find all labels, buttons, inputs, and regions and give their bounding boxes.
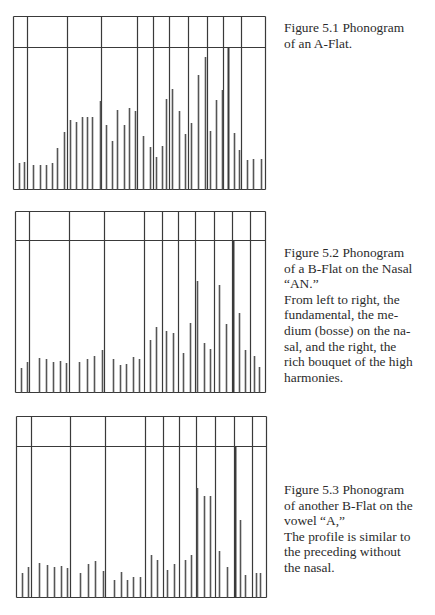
caption-line: sal, and the right, the bbox=[284, 339, 434, 355]
caption-line: “AN.” bbox=[284, 276, 434, 292]
caption-line: Figure 5.1 Phonogram bbox=[284, 20, 434, 36]
phonogram-plot bbox=[15, 211, 266, 393]
caption-line: dium (bosse) on the na- bbox=[284, 323, 434, 339]
caption-line: Figure 5.3 Phonogram bbox=[284, 482, 434, 498]
caption-line: vowel “A,” bbox=[284, 513, 434, 529]
caption-line: the preceding without bbox=[284, 544, 434, 560]
caption-line: of a B-Flat on the Nasal bbox=[284, 261, 434, 277]
figure-caption: Figure 5.1 Phonogramof an A-Flat. bbox=[284, 20, 434, 51]
figure-caption: Figure 5.2 Phonogramof a B-Flat on the N… bbox=[284, 245, 434, 385]
phonogram-svg bbox=[13, 16, 266, 190]
caption-line: fundamental, the me- bbox=[284, 307, 434, 323]
phonogram-plot bbox=[16, 416, 267, 598]
caption-line: the nasal. bbox=[284, 560, 434, 576]
caption-line: of an A-Flat. bbox=[284, 36, 434, 52]
caption-line: The profile is similar to bbox=[284, 529, 434, 545]
caption-line: From left to right, the bbox=[284, 292, 434, 308]
caption-line: harmonies. bbox=[284, 370, 434, 386]
phonogram-plot bbox=[13, 16, 266, 190]
caption-line: Figure 5.2 Phonogram bbox=[284, 245, 434, 261]
caption-line: rich bouquet of the high bbox=[284, 354, 434, 370]
caption-line: of another B-Flat on the bbox=[284, 498, 434, 514]
phonogram-svg bbox=[16, 416, 267, 598]
figure-caption: Figure 5.3 Phonogramof another B-Flat on… bbox=[284, 482, 434, 576]
phonogram-svg bbox=[15, 211, 266, 393]
